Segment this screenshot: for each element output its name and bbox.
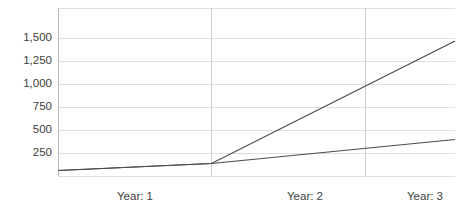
y-axis-tick-labels: 1,500 1,250 1,000 750 500 250 xyxy=(23,31,52,158)
y-tick-label: 1,250 xyxy=(23,54,52,66)
chart-canvas: 1,500 1,250 1,000 750 500 250 Year: 1 Ye… xyxy=(0,0,466,214)
y-tick-label: 500 xyxy=(33,123,52,135)
y-tick-label: 1,500 xyxy=(23,31,52,43)
x-tick-label-year-1: Year: 1 xyxy=(117,190,153,202)
x-axis-tick-labels: Year: 1 Year: 2 Year: 3 xyxy=(117,190,443,202)
line-chart: 1,500 1,250 1,000 750 500 250 Year: 1 Ye… xyxy=(0,0,466,214)
x-tick-label-year-3: Year: 3 xyxy=(407,190,443,202)
y-tick-label: 750 xyxy=(33,100,52,112)
x-tick-label-year-2: Year: 2 xyxy=(287,190,323,202)
y-tick-label: 250 xyxy=(33,146,52,158)
y-tick-label: 1,000 xyxy=(23,77,52,89)
plot-area-background xyxy=(58,8,455,176)
